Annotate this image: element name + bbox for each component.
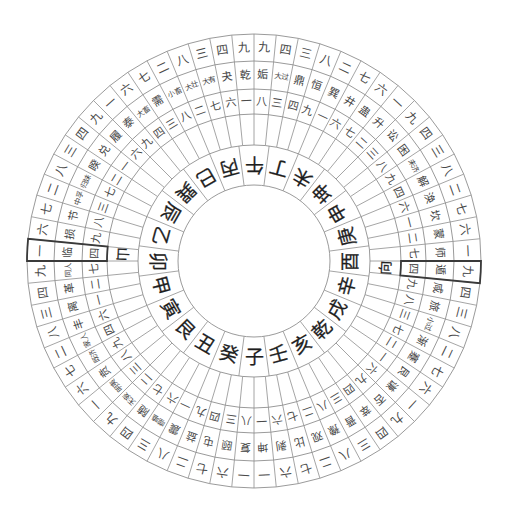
- hexagram-name: 复: [239, 440, 251, 455]
- mountain-label: 酉: [339, 252, 361, 271]
- gua-yun-number: 二: [89, 278, 103, 291]
- hexagram-name: 同人: [63, 262, 73, 277]
- mountain-label: 子: [245, 346, 264, 368]
- gua-shu-number: 九: [258, 40, 271, 55]
- gua-yun-number: 九: [89, 231, 103, 244]
- gua-yun-number: 四: [407, 263, 421, 275]
- gua-shu-number: 四: [457, 285, 473, 299]
- gua-yun-number: 七: [88, 263, 102, 275]
- gua-yun-number: 九: [405, 278, 419, 291]
- gua-yun-number: 八: [256, 95, 268, 109]
- mountain-label: 午: [245, 154, 264, 176]
- gua-shu-number: 一: [33, 244, 48, 257]
- hexagram-name: 颐: [220, 438, 233, 452]
- gua-yun-number: 一: [256, 414, 268, 428]
- hexagram-name: 咸: [431, 282, 445, 295]
- hexagram-name: 遁: [433, 264, 448, 276]
- sitting-marker: 山: [114, 247, 131, 262]
- hexagram-name: 剥: [275, 438, 288, 452]
- gua-shu-number: 九: [33, 265, 48, 278]
- hexagram-name: 蒙: [431, 227, 445, 240]
- gua-yun-number: 七: [407, 247, 421, 259]
- gua-shu-number: 一: [460, 244, 475, 257]
- gua-shu-number: 九: [237, 40, 250, 55]
- hexagram-name: 损: [62, 227, 77, 240]
- gua-shu-number: 六: [216, 464, 230, 480]
- gua-shu-number: 一: [258, 467, 271, 482]
- hexagram-name: 临: [60, 246, 75, 258]
- gua-shu-number: 六: [35, 223, 51, 237]
- hexagram-name: 乾: [239, 68, 251, 82]
- gua-shu-number: 九: [460, 265, 475, 278]
- gua-yun-number: 二: [405, 231, 419, 244]
- hexagram-name: 夬: [220, 70, 233, 84]
- mountain-label: 卯: [147, 252, 169, 271]
- facing-marker: 向: [377, 260, 394, 275]
- hexagram-name: 姤: [257, 68, 269, 82]
- hexagram-name: 革: [62, 282, 77, 295]
- luopan-compass: 九四三八二七六一九四三八二七六一九四三八二七六一九四三八二七六一一六七二八三四九…: [0, 0, 511, 523]
- gua-shu-number: 四: [35, 285, 51, 299]
- gua-yun-number: 六: [271, 412, 284, 426]
- gua-yun-number: 三: [271, 96, 284, 110]
- gua-shu-number: 六: [278, 464, 292, 480]
- gua-shu-number: 四: [278, 42, 292, 58]
- hexagram-name: 师: [433, 246, 447, 258]
- gua-yun-number: 一: [240, 95, 252, 109]
- gua-yun-number: 四: [88, 247, 102, 259]
- gua-yun-number: 六: [224, 96, 237, 110]
- gua-yun-number: 八: [240, 414, 252, 428]
- gua-shu-number: 六: [457, 223, 473, 237]
- hexagram-name: 坤: [257, 440, 269, 455]
- gua-shu-number: 四: [216, 42, 230, 58]
- gua-yun-number: 三: [224, 412, 237, 426]
- gua-shu-number: 一: [237, 467, 250, 482]
